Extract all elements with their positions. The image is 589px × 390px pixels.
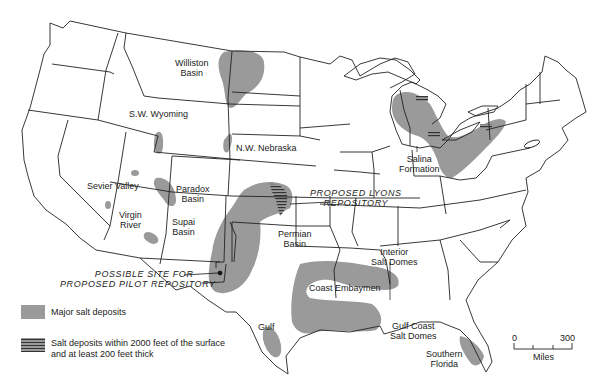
legend-hatched-line1: Salt deposits within 2000 feet of the su… (51, 338, 225, 349)
label-salina-line2: Formation (399, 164, 440, 174)
label-permian-line2: Basin (278, 239, 312, 249)
scale-bar (514, 343, 572, 349)
label-williston: Williston Basin (175, 58, 209, 78)
label-gcsd-line1: Gulf Coast (390, 321, 437, 331)
label-supai-line2: Basin (172, 227, 195, 237)
us-salt-map (0, 0, 589, 390)
legend-major-salt: Major salt deposits (21, 305, 126, 319)
label-williston-line1: Williston (175, 58, 209, 68)
label-supai: Supai Basin (172, 217, 195, 237)
label-sevier-valley: Sevier Valley (87, 181, 139, 191)
scale-min-label: 0 (512, 333, 517, 343)
label-southern-florida: Southern Florida (426, 349, 463, 369)
label-supai-line1: Supai (172, 217, 195, 227)
annotation-lyons: PROPOSED LYONS REPOSITORY (310, 188, 402, 208)
label-interior-line2: Salt Domes (371, 257, 418, 267)
label-paradox: Paradox Basin (176, 184, 210, 204)
label-virgin-line1: Virgin (119, 210, 142, 220)
label-gcsd-line2: Salt Domes (390, 331, 437, 341)
annotation-pilot: POSSIBLE SITE FOR PROPOSED PILOT REPOSIT… (60, 269, 216, 289)
legend-hatched-line2: and at least 200 feet thick (51, 349, 225, 360)
legend-major-salt-text: Major salt deposits (51, 305, 126, 318)
label-interior-salt-domes: Interior Salt Domes (371, 247, 418, 267)
label-williston-line2: Basin (175, 68, 209, 78)
annotation-lyons-line2: REPOSITORY (310, 198, 402, 208)
label-sf-line2: Florida (426, 359, 463, 369)
legend-hatched-salt: Salt deposits within 2000 feet of the su… (21, 338, 225, 360)
label-salina-line1: Salina (399, 154, 440, 164)
annotation-pilot-line1: POSSIBLE SITE FOR (60, 269, 216, 279)
label-permian: Permian Basin (278, 229, 312, 249)
legend-swatch-hatched (21, 338, 45, 352)
label-paradox-line2: Basin (176, 194, 210, 204)
scale-unit-label: Miles (533, 352, 554, 362)
scale-max-label: 300 (560, 333, 575, 343)
salt-deposits (105, 50, 506, 365)
label-virgin-river: Virgin River (119, 210, 142, 230)
label-salina: Salina Formation (399, 154, 440, 174)
label-paradox-line1: Paradox (176, 184, 210, 194)
label-sf-line1: Southern (426, 349, 463, 359)
legend-swatch-solid (21, 305, 45, 319)
legend-hatched-text: Salt deposits within 2000 feet of the su… (51, 338, 225, 360)
label-virgin-line2: River (119, 220, 142, 230)
label-permian-line1: Permian (278, 229, 312, 239)
annotation-lyons-line1: PROPOSED LYONS (310, 188, 402, 198)
label-interior-line1: Interior (371, 247, 418, 257)
annotation-pilot-line2: PROPOSED PILOT REPOSITORY (60, 279, 216, 289)
label-nw-nebraska: N.W. Nebraska (236, 143, 297, 153)
label-coast-embaymen: Coast Embaymen (309, 283, 381, 293)
label-gulf: Gulf (258, 322, 275, 332)
label-sw-wyoming: S.W. Wyoming (129, 109, 188, 119)
label-gulf-coast-salt-domes: Gulf Coast Salt Domes (390, 321, 437, 341)
